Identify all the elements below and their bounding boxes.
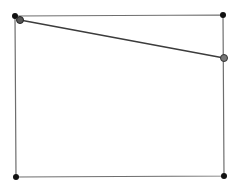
segment-start-dot — [17, 17, 24, 24]
diagonal-segment — [20, 20, 224, 58]
segment-end-dot — [221, 55, 228, 62]
vertex-bottom-left-dot — [13, 174, 19, 180]
vertex-bottom-right-dot — [221, 173, 227, 179]
vertex-top-right-dot — [220, 12, 226, 18]
diagram-canvas — [0, 0, 239, 185]
rectangle-vertices — [12, 12, 227, 180]
